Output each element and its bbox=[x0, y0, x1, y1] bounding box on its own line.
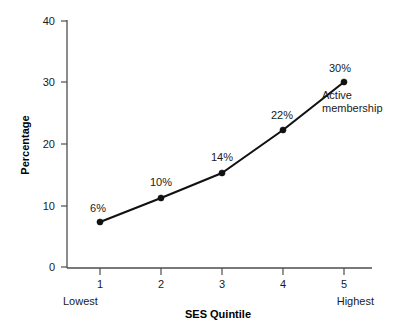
chart-container: 40 30 20 10 0 1 2 3 4 5 Lowest Highest S… bbox=[0, 0, 405, 325]
data-label-4: 22% bbox=[271, 109, 293, 121]
data-point-2[interactable] bbox=[158, 195, 164, 201]
y-tick-label-20: 20 bbox=[43, 138, 55, 150]
series-annotation-line2: membership bbox=[322, 102, 383, 114]
x-tick-label-2: 2 bbox=[158, 278, 164, 290]
series-annotation-line1: Active bbox=[322, 89, 352, 101]
data-point-3[interactable] bbox=[219, 170, 225, 176]
data-label-2: 10% bbox=[150, 176, 172, 188]
x-tick-label-5: 5 bbox=[341, 278, 347, 290]
y-tick-label-40: 40 bbox=[43, 15, 55, 27]
y-tick-label-10: 10 bbox=[43, 200, 55, 212]
data-label-3: 14% bbox=[211, 151, 233, 163]
x-axis-high-end-label: Highest bbox=[337, 295, 374, 307]
x-tick-label-1: 1 bbox=[97, 278, 103, 290]
line-chart-plot: 40 30 20 10 0 1 2 3 4 5 Lowest Highest S… bbox=[0, 0, 405, 325]
x-tick-label-3: 3 bbox=[219, 278, 225, 290]
x-axis-title: SES Quintile bbox=[185, 308, 251, 320]
data-label-5: 30% bbox=[329, 62, 351, 74]
data-label-1: 6% bbox=[90, 202, 106, 214]
y-axis-title: Percentage bbox=[19, 115, 31, 174]
x-tick-label-4: 4 bbox=[280, 278, 286, 290]
y-tick-label-30: 30 bbox=[43, 76, 55, 88]
y-tick-label-0: 0 bbox=[49, 261, 55, 273]
x-axis-low-end-label: Lowest bbox=[63, 295, 98, 307]
data-point-4[interactable] bbox=[280, 127, 286, 133]
data-point-5[interactable] bbox=[341, 79, 347, 85]
data-point-1[interactable] bbox=[97, 219, 103, 225]
